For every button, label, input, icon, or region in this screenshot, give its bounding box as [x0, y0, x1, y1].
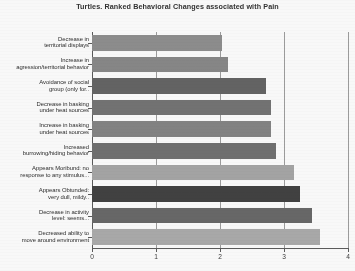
y-tick-mark — [88, 108, 92, 109]
bar-chart: Turtles. Ranked Behavioral Changes assoc… — [0, 0, 355, 271]
bar — [92, 186, 300, 202]
y-axis-label-line: territorial displays — [0, 42, 89, 49]
bar — [92, 35, 222, 51]
y-axis-label: Decreased ability tomove around environm… — [0, 230, 89, 243]
chart-title: Turtles. Ranked Behavioral Changes assoc… — [0, 2, 355, 11]
y-axis-label: Appears Obtunded:very dull, mildy.. — [0, 187, 89, 200]
bar — [92, 143, 276, 159]
x-tick-label-3: 3 — [282, 253, 286, 260]
bar — [92, 100, 271, 116]
x-tick-label-0: 0 — [90, 253, 94, 260]
bar — [92, 208, 312, 224]
y-tick-mark — [88, 194, 92, 195]
y-axis-label: Avoidance of socialgroup (only for.. — [0, 79, 89, 92]
bar — [92, 57, 228, 73]
y-axis-label: Appears Moribund: noresponse to any stim… — [0, 165, 89, 178]
y-tick-mark — [88, 216, 92, 217]
x-tick-mark-3 — [284, 248, 285, 252]
y-axis-label: Increase inagression/territorial behavio… — [0, 57, 89, 70]
y-axis-label-line: under heat sources — [0, 107, 89, 114]
bar — [92, 229, 320, 245]
bar — [92, 121, 271, 137]
y-axis-label: Decrease interritorial displays — [0, 36, 89, 49]
x-tick-mark-4 — [348, 248, 349, 252]
x-tick-mark-1 — [156, 248, 157, 252]
y-axis-label: Increasedburrowing/hiding behavior — [0, 144, 89, 157]
y-axis-label-line: move around environment — [0, 237, 89, 244]
y-axis-label-line: agression/territorial behavior — [0, 64, 89, 71]
y-axis-label-line: burrowing/hiding behavior — [0, 150, 89, 157]
y-tick-mark — [88, 172, 92, 173]
y-tick-mark — [88, 151, 92, 152]
y-tick-mark — [88, 43, 92, 44]
y-axis-label-line: under heat sources — [0, 129, 89, 136]
y-axis-label-line: level: seems... — [0, 215, 89, 222]
y-axis-label-line: group (only for.. — [0, 86, 89, 93]
x-tick-label-4: 4 — [346, 253, 350, 260]
bar — [92, 165, 294, 181]
x-tick-label-2: 2 — [218, 253, 222, 260]
y-axis-label: Decrease in baskingunder heat sources — [0, 101, 89, 114]
x-tick-label-1: 1 — [154, 253, 158, 260]
y-tick-mark — [88, 129, 92, 130]
y-axis-label-line: response to any stimulus... — [0, 172, 89, 179]
y-tick-mark — [88, 237, 92, 238]
bar — [92, 78, 266, 94]
x-tick-mark-0 — [92, 248, 93, 252]
x-tick-mark-2 — [220, 248, 221, 252]
y-tick-mark — [88, 64, 92, 65]
y-axis-label-line: very dull, mildy.. — [0, 194, 89, 201]
y-axis-label: Increase in baskingunder heat sources — [0, 122, 89, 135]
y-axis-label: Decrease in activitylevel: seems... — [0, 209, 89, 222]
y-tick-mark — [88, 86, 92, 87]
